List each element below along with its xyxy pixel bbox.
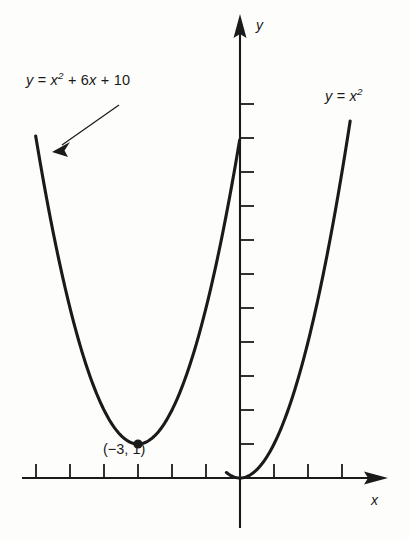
x-axis-ticks [36, 464, 342, 478]
parabola-figure: y = x2 + 6x + 10 y = x2 (−3, 1) y x [0, 0, 409, 540]
curve-y-equals-x-squared-plus-6x-plus-10 [36, 136, 240, 444]
curve-a-exponent: 2 [357, 86, 363, 97]
x-axis-label: x [371, 492, 378, 508]
vertex-coordinate-label: (−3, 1) [103, 441, 145, 457]
curve-a-equation-label: y = x2 [325, 88, 363, 104]
curve-b-exponent: 2 [58, 70, 64, 81]
curve-b-equation-label: y = x2 + 6x + 10 [26, 72, 130, 88]
y-axis-ticks [240, 104, 254, 444]
curve-b-callout-arrow [52, 105, 119, 157]
y-axis-label: y [256, 17, 263, 33]
curve-y-equals-x-squared [226, 121, 350, 478]
